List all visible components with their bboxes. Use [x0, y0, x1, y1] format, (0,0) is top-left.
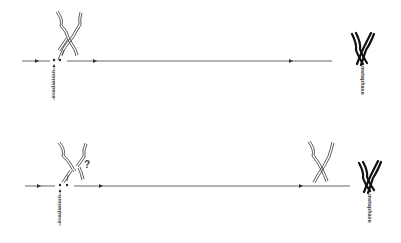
bottom-irradiation-label: irradiation: [56, 195, 62, 224]
top-dot-1: [53, 59, 55, 61]
top-arrow-icon-2: [93, 59, 97, 63]
top-dot-2: [59, 59, 61, 61]
top-chromatid-cross-icon: [56, 11, 82, 60]
top-arrow-icon-3: [289, 59, 293, 63]
top-metaphase-label: metaphase: [360, 66, 366, 95]
bottom-arrow-icon-3: [299, 184, 303, 188]
top-arrow-icon-1: [35, 59, 39, 63]
bottom-arrow-icon-2: [99, 184, 103, 188]
bottom-metaphase-chromosome-icon: [359, 161, 381, 193]
bottom-chromatid-cross-icon: [58, 142, 87, 183]
bottom-panel: [25, 141, 381, 226]
top-panel: [22, 11, 374, 100]
bottom-dot-1: [59, 184, 61, 186]
top-irradiation-arrowhead-icon: [53, 64, 56, 67]
question-mark: ?: [84, 159, 90, 170]
bottom-arrow-icon-1: [37, 184, 41, 188]
top-irradiation-label: irradiation: [50, 70, 56, 99]
top-metaphase-chromosome-icon: [352, 33, 374, 65]
bottom-metaphase-label: metaphase: [367, 194, 373, 223]
bottom-intermediate-chromosome-icon: [308, 141, 334, 183]
bottom-dot-2: [66, 184, 68, 186]
bottom-irradiation-arrowhead-icon: [59, 189, 62, 192]
